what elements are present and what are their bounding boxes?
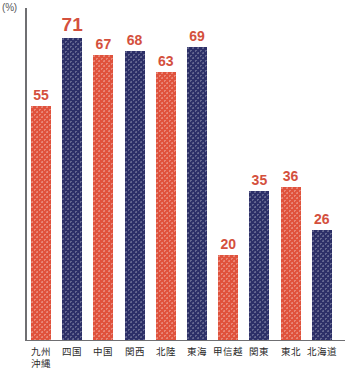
- bar-group: 55: [31, 106, 51, 340]
- x-axis-category-label: 東海: [187, 346, 207, 358]
- bar: [62, 38, 82, 340]
- category-label-line1: 甲信越: [213, 346, 243, 357]
- category-label-line1: 関西: [125, 346, 145, 357]
- category-label-line1: 関東: [249, 346, 269, 357]
- bar-value-label: 26: [314, 212, 330, 226]
- bar: [312, 230, 332, 341]
- x-axis-category-label: 関西: [125, 346, 145, 358]
- bar: [156, 72, 176, 340]
- bar-group: 36: [281, 187, 301, 340]
- bar-value-label: 20: [220, 237, 236, 251]
- bar-value-label: 68: [127, 33, 143, 47]
- bar-value-label: 69: [189, 29, 205, 43]
- category-label-line1: 東北: [281, 346, 301, 357]
- bar-group: 63: [156, 72, 176, 340]
- bar-group: 20: [218, 255, 238, 340]
- category-label-line2: 沖縄: [31, 358, 51, 370]
- bar-group: 26: [312, 230, 332, 341]
- bar: [93, 55, 113, 340]
- plot-area: 55九州沖縄71四国67中国68関西63北陸69東海20甲信越35関東36東北2…: [0, 0, 348, 376]
- x-axis-category-label: 関東: [249, 346, 269, 358]
- category-label-line1: 九州: [31, 346, 51, 357]
- bar-group: 68: [125, 51, 145, 340]
- category-label-line1: 北海道: [307, 346, 337, 357]
- x-axis-category-label: 四国: [62, 346, 82, 358]
- x-axis-category-label: 東北: [281, 346, 301, 358]
- bar: [187, 47, 207, 340]
- bar-value-label: 67: [96, 37, 112, 51]
- bar-group: 35: [249, 191, 269, 340]
- bar-value-label: 63: [158, 54, 174, 68]
- bar-group: 69: [187, 47, 207, 340]
- x-axis-category-label: 九州沖縄: [31, 346, 51, 370]
- bar-value-label: 55: [33, 88, 49, 102]
- category-label-line1: 四国: [62, 346, 82, 357]
- x-axis-category-label: 中国: [93, 346, 113, 358]
- bar-value-label: 35: [252, 173, 268, 187]
- bar-group: 67: [93, 55, 113, 340]
- bar: [31, 106, 51, 340]
- category-label-line1: 北陸: [156, 346, 176, 357]
- x-axis-category-label: 北海道: [307, 346, 337, 358]
- bar: [281, 187, 301, 340]
- category-label-line1: 東海: [187, 346, 207, 357]
- bar-value-label: 71: [62, 15, 83, 34]
- category-label-line1: 中国: [93, 346, 113, 357]
- bar: [125, 51, 145, 340]
- x-axis-category-label: 北陸: [156, 346, 176, 358]
- bar: [218, 255, 238, 340]
- bar-group: 71: [62, 38, 82, 340]
- bar-chart: (%) 55九州沖縄71四国67中国68関西63北陸69東海20甲信越35関東3…: [0, 0, 348, 376]
- x-axis-category-label: 甲信越: [213, 346, 243, 358]
- bar-value-label: 36: [283, 169, 299, 183]
- bar: [249, 191, 269, 340]
